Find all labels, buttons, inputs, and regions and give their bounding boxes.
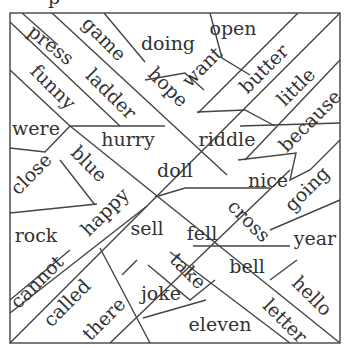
word-cross: cross [224,195,275,246]
word-funny: funny [26,60,80,114]
word-ladder: ladder [82,64,142,124]
word-year: year [293,227,337,249]
word-puzzle-grid: p [0,0,345,348]
title-fragment: p [48,0,60,8]
word-doll: doll [157,159,193,181]
word-open: open [209,17,256,39]
word-hello: hello [288,271,337,320]
word-doing: doing [141,32,195,54]
word-riddle: riddle [199,128,256,150]
word-eleven: eleven [189,313,252,335]
word-game: game [78,12,131,65]
word-labels: pressgamedoingopenfunnyladderhopewantbut… [5,12,345,348]
word-were: were [12,117,60,139]
word-rock: rock [15,224,58,246]
word-hurry: hurry [101,128,155,150]
word-close: close [5,148,55,198]
word-joke: joke [139,282,181,304]
word-there: there [78,293,130,345]
word-bell: bell [229,255,265,277]
word-fell: fell [187,222,217,244]
word-nice: nice [248,169,288,191]
word-sell: sell [130,217,163,239]
puzzle-svg: p [0,0,345,348]
